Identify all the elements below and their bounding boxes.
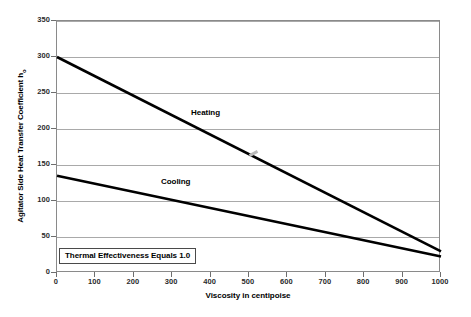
x-tick-label: 800 [343,278,383,286]
x-tick-label: 100 [74,278,114,286]
y-tick-label: 300 [16,52,50,60]
x-axis-title: Viscosity in centipoise [56,291,440,300]
x-tick-label: 200 [113,278,153,286]
x-tick-label: 400 [190,278,230,286]
y-tick-label: 50 [16,232,50,240]
chart-figure: Agitator Side Heat Transfer Coefficient … [0,0,471,317]
x-tick-label: 700 [305,278,345,286]
x-tick-label: 900 [382,278,422,286]
y-tick-label: 350 [16,16,50,24]
series-label-cooling: Cooling [161,177,190,186]
plot-area [56,20,440,272]
y-axis-title-subscript: o [21,69,27,73]
y-tick-label: 0 [16,268,50,276]
y-tick-label: 200 [16,124,50,132]
x-tick-label: 500 [228,278,268,286]
series-lines [57,21,441,273]
y-tick-label: 250 [16,88,50,96]
series-line-cooling [57,176,441,257]
y-tick-label: 100 [16,196,50,204]
x-tick-label: 300 [151,278,191,286]
series-label-heating: Heating [191,108,220,117]
x-tick-label: 1000 [420,278,460,286]
x-tick-label: 0 [36,278,76,286]
y-tick-label: 150 [16,160,50,168]
x-tick-label: 600 [266,278,306,286]
annotation-thermal-effectiveness: Thermal Effectiveness Equals 1.0 [59,248,196,264]
